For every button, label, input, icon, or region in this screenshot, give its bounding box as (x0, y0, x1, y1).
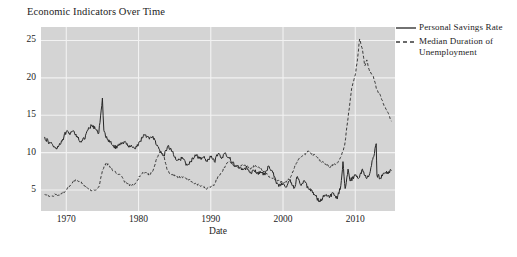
y-tick-label: 25 (6, 35, 36, 45)
y-tick-label: 20 (6, 73, 36, 83)
x-tick-label: 1990 (189, 215, 233, 225)
dashed-line-icon (396, 36, 416, 47)
gridlines (41, 27, 395, 211)
x-axis-title: Date (41, 226, 395, 236)
plot-area (41, 27, 395, 211)
x-tick-label: 2000 (261, 215, 305, 225)
legend-label: Median Duration of Unemployment (419, 36, 517, 59)
y-tick-label: 5 (6, 185, 36, 195)
x-tick-label: 2010 (333, 215, 377, 225)
series-line-2 (45, 39, 392, 197)
legend-item[interactable]: Median Duration of Unemployment (396, 36, 517, 59)
y-tick-label: 15 (6, 110, 36, 120)
x-tick-label: 1980 (117, 215, 161, 225)
chart-figure: Economic Indicators Over Time Value 5101… (0, 0, 517, 257)
x-tick-label: 1970 (44, 215, 88, 225)
legend-label: Personal Savings Rate (419, 22, 517, 34)
legend-item[interactable]: Personal Savings Rate (396, 22, 517, 34)
chart-title: Economic Indicators Over Time (27, 6, 165, 17)
solid-line-icon (396, 22, 416, 33)
series-line-1 (45, 98, 392, 202)
data-series-group (45, 39, 392, 202)
plot-svg (41, 27, 395, 211)
y-tick-label: 10 (6, 148, 36, 158)
chart-legend: Personal Savings RateMedian Duration of … (396, 22, 517, 61)
